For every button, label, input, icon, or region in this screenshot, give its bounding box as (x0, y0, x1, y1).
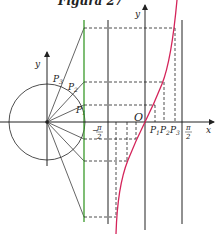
p2-circle-label: P2 (67, 82, 78, 93)
figure-title: Figura 27 (58, 0, 123, 8)
p1-axis-label: P1 (149, 125, 160, 136)
svg-text:2: 2 (96, 133, 102, 141)
svg-text:π: π (96, 124, 102, 132)
p2-axis-label: P2 (159, 125, 170, 136)
tangent-curve (116, 0, 177, 234)
graph-y-label: y (134, 9, 141, 19)
tangent-function-figure: Figura 27 y P3 P2 P1 (0, 0, 218, 234)
p3-axis-label: P3 (169, 125, 180, 136)
svg-text:2: 2 (185, 133, 191, 141)
half-pi-label: π 2 (185, 124, 192, 141)
neg-half-pi-label: − π 2 (92, 124, 103, 141)
p3-circle-label: P3 (52, 74, 63, 85)
svg-text:π: π (185, 124, 191, 132)
origin-label: O (134, 111, 143, 124)
unit-circle-y-label: y (34, 59, 41, 69)
x-axis-label: x (206, 125, 211, 135)
